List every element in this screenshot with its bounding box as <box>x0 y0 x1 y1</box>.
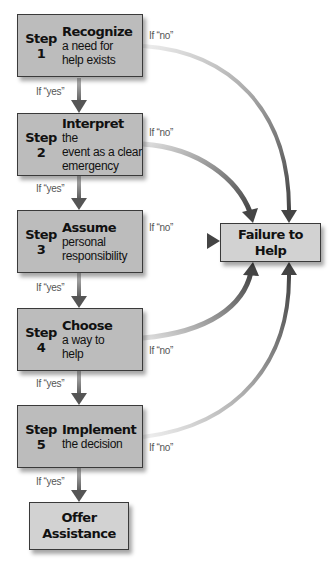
step-title: Choose <box>62 318 112 333</box>
yes-arrow-3 <box>71 273 87 308</box>
step-3-box: Step3 Assumepersonal responsibility <box>17 210 143 273</box>
yes-label-5: If “yes” <box>36 476 64 487</box>
offer-label: Offer <box>61 510 96 526</box>
step-4-box: Step4 Choosea way to help <box>17 308 143 371</box>
step-desc: personal responsibility <box>62 235 132 263</box>
failure-label: Failure to Help <box>221 227 320 259</box>
no-label-5: If “no” <box>149 442 173 453</box>
no-label-3: If “no” <box>149 222 173 233</box>
step-number: 4 <box>37 340 46 355</box>
yes-label-1: If “yes” <box>36 86 64 97</box>
yes-arrow-4 <box>71 370 87 405</box>
step-desc: a way to help <box>62 333 112 361</box>
step-label: Step <box>25 227 57 242</box>
step-title-suffix: the <box>62 131 78 145</box>
step-number: 2 <box>37 145 46 160</box>
step-title: Assume <box>62 220 116 235</box>
step-desc: the decision <box>62 437 138 451</box>
yes-label-2: If “yes” <box>36 183 64 194</box>
step-2-box: Step2 Interpret theevent as a clear emer… <box>17 113 143 176</box>
yes-arrow-1 <box>71 78 87 113</box>
step-label: Step <box>25 130 57 145</box>
yes-label-4: If “yes” <box>36 378 64 389</box>
step-title: Recognize <box>62 24 132 39</box>
step-label: Step <box>25 422 57 437</box>
no-arrow-4 <box>143 262 259 338</box>
no-arrow-2 <box>143 144 258 223</box>
yes-arrow-2 <box>71 175 87 210</box>
no-arrow-3 <box>143 233 220 249</box>
yes-label-3: If “yes” <box>36 282 64 293</box>
step-number: 5 <box>37 437 46 452</box>
no-label-1: If “no” <box>149 30 173 41</box>
step-desc: a need for help exists <box>62 39 132 67</box>
step-5-box: Step5 Implementthe decision <box>17 405 143 468</box>
assistance-label: Assistance <box>42 526 116 542</box>
step-label: Step <box>25 325 57 340</box>
step-number: 3 <box>37 242 46 257</box>
step-title: Interpret <box>62 116 124 131</box>
failure-to-help-box: Failure to Help <box>220 223 321 262</box>
step-desc: event as a clear emergency <box>62 145 142 173</box>
no-label-4: If “no” <box>149 345 173 356</box>
offer-assistance-box: Offer Assistance <box>29 502 129 550</box>
no-label-2: If “no” <box>149 127 173 138</box>
step-title: Implement <box>62 422 136 437</box>
step-1-box: Step1 Recognizea need for help exists <box>17 14 143 77</box>
yes-arrow-5 <box>71 468 87 502</box>
step-label: Step <box>25 31 57 46</box>
step-number: 1 <box>37 46 46 61</box>
